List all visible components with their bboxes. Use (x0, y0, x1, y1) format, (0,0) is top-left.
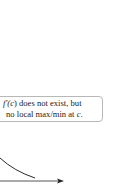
function-curve (0, 158, 35, 178)
function-plot (0, 0, 116, 185)
